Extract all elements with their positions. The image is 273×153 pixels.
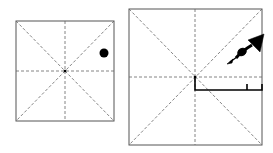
right-fold-panel [129,9,264,145]
measure-bracket [195,77,262,90]
origami-diagram [0,0,273,153]
fold-arrow-icon [227,34,264,64]
center-point-icon [64,70,67,73]
reference-dot-icon [100,49,109,58]
left-fold-panel [16,21,114,121]
